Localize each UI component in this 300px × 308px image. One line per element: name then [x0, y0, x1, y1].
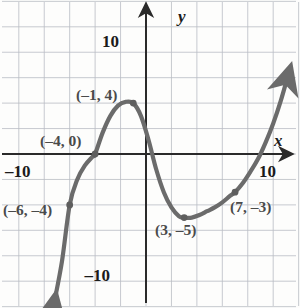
graph-figure: y x 10 –10 –10 10 (–6, –4) (–4, 0) (–1, …: [0, 0, 300, 308]
data-point-marker: [181, 214, 188, 221]
x-tick-label-neg10: –10: [4, 162, 31, 181]
y-tick-label-10: 10: [102, 32, 119, 51]
data-point-marker: [130, 100, 137, 107]
annotation-point-neg4-0: (–4, 0): [40, 132, 81, 150]
annotation-point-neg1-4: (–1, 4): [76, 86, 117, 104]
annotation-point-neg6-neg4: (–6, –4): [3, 201, 52, 219]
data-point-marker: [232, 189, 239, 196]
annotation-point-3-neg5: (3, –5): [155, 221, 196, 239]
y-tick-label-neg10: –10: [84, 266, 111, 285]
x-axis-name: x: [273, 131, 283, 150]
annotation-point-7-neg3: (7, –3): [230, 198, 271, 216]
y-axis-name: y: [176, 7, 186, 26]
coordinate-plane-svg: y x 10 –10 –10 10 (–6, –4) (–4, 0) (–1, …: [0, 0, 300, 308]
data-point-marker: [66, 201, 73, 208]
data-point-marker: [92, 151, 99, 158]
x-tick-label-10: 10: [259, 162, 276, 181]
